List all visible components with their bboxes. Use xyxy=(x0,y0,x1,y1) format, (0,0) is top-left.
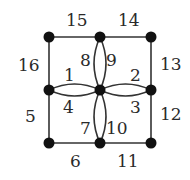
label-8: 8 xyxy=(80,50,91,70)
nodes xyxy=(44,32,157,149)
label-3: 3 xyxy=(130,97,141,117)
node-top-left xyxy=(44,32,55,43)
graph-canvas: 15 14 16 13 8 9 1 2 4 3 5 12 7 10 6 11 xyxy=(0,0,190,180)
edge-4 xyxy=(49,90,100,96)
label-11: 11 xyxy=(117,151,139,171)
label-10: 10 xyxy=(106,118,128,138)
node-center xyxy=(95,85,106,96)
edge-2 xyxy=(100,84,151,90)
node-middle-right xyxy=(146,85,157,96)
edge-8 xyxy=(94,37,100,90)
label-6: 6 xyxy=(70,151,81,171)
label-13: 13 xyxy=(160,54,182,74)
label-14: 14 xyxy=(118,10,140,30)
node-middle-left xyxy=(44,85,55,96)
label-16: 16 xyxy=(18,55,40,75)
node-bottom-right xyxy=(146,138,157,149)
label-9: 9 xyxy=(106,50,117,70)
label-4: 4 xyxy=(63,97,74,117)
edge-3 xyxy=(100,90,151,96)
label-7: 7 xyxy=(80,118,91,138)
node-top-middle xyxy=(95,32,106,43)
node-bottom-middle xyxy=(95,138,106,149)
edge-7 xyxy=(94,90,100,143)
label-5: 5 xyxy=(25,106,36,126)
node-top-right xyxy=(146,32,157,43)
label-15: 15 xyxy=(66,10,88,30)
node-bottom-left xyxy=(44,138,55,149)
label-2: 2 xyxy=(130,65,141,85)
label-1: 1 xyxy=(64,65,75,85)
label-12: 12 xyxy=(160,104,182,124)
graph-diagram: 15 14 16 13 8 9 1 2 4 3 5 12 7 10 6 11 xyxy=(0,0,190,180)
